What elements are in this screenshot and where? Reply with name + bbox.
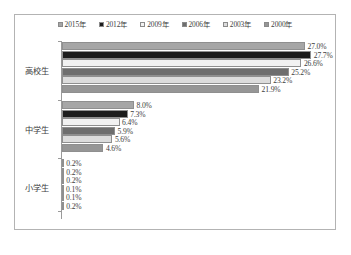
chart-frame: 2015年2012年2009年2006年2003年2000年 高校生27.0%2… bbox=[14, 14, 336, 230]
legend-swatch-icon bbox=[182, 22, 187, 27]
bar-row: 6.4% bbox=[62, 118, 337, 126]
bar-row: 4.6% bbox=[62, 144, 337, 152]
legend-swatch-icon bbox=[264, 22, 269, 27]
bar-row: 5.6% bbox=[62, 135, 337, 143]
bar-row: 7.3% bbox=[62, 110, 337, 118]
legend-entry[interactable]: 2009年 bbox=[140, 21, 168, 28]
legend-label: 2006年 bbox=[189, 21, 210, 28]
bar[interactable] bbox=[62, 85, 259, 93]
bar-row: 23.2% bbox=[62, 76, 337, 84]
bar[interactable] bbox=[62, 144, 103, 152]
axis-tick bbox=[58, 211, 61, 212]
bar[interactable] bbox=[62, 51, 311, 59]
legend-entry[interactable]: 2003年 bbox=[223, 21, 251, 28]
bar[interactable] bbox=[62, 42, 305, 50]
bar-row: 27.7% bbox=[62, 51, 337, 59]
legend-swatch-icon bbox=[99, 22, 104, 27]
bar[interactable] bbox=[62, 159, 64, 167]
bar[interactable] bbox=[62, 59, 301, 67]
legend-swatch-icon bbox=[58, 22, 63, 27]
bar[interactable] bbox=[62, 168, 64, 176]
legend-entry[interactable]: 2015年 bbox=[58, 21, 86, 28]
axis-tick bbox=[58, 158, 61, 159]
category-axis-label: 高校生 bbox=[15, 64, 59, 76]
bar-series-container: 27.0%27.7%26.6%25.2%23.2%21.9% bbox=[62, 42, 337, 94]
bar[interactable] bbox=[62, 185, 64, 193]
bar-row: 0.2% bbox=[62, 159, 337, 167]
bar-row: 26.6% bbox=[62, 59, 337, 67]
legend-label: 2003年 bbox=[230, 21, 251, 28]
legend-entry[interactable]: 2006年 bbox=[182, 21, 210, 28]
legend-label: 2009年 bbox=[147, 21, 168, 28]
bar-value-label: 25.2% bbox=[291, 67, 310, 76]
bar-value-label: 0.2% bbox=[66, 201, 81, 210]
bar-row: 8.0% bbox=[62, 101, 337, 109]
bar-row: 25.2% bbox=[62, 68, 337, 76]
chart-legend: 2015年2012年2009年2006年2003年2000年 bbox=[15, 21, 335, 28]
legend-label: 2015年 bbox=[65, 21, 86, 28]
category-axis-label: 中学生 bbox=[15, 123, 59, 135]
bar[interactable] bbox=[62, 68, 289, 76]
bar-row: 0.2% bbox=[62, 176, 337, 184]
bar[interactable] bbox=[62, 135, 112, 143]
axis-tick bbox=[58, 100, 61, 101]
bar[interactable] bbox=[62, 118, 120, 126]
bar-row: 0.1% bbox=[62, 193, 337, 201]
legend-label: 2000年 bbox=[271, 21, 292, 28]
bar[interactable] bbox=[62, 176, 64, 184]
bar-row: 5.9% bbox=[62, 127, 337, 135]
legend-label: 2012年 bbox=[106, 21, 127, 28]
bar-row: 27.0% bbox=[62, 42, 337, 50]
bar-row: 0.2% bbox=[62, 168, 337, 176]
legend-swatch-icon bbox=[140, 22, 145, 27]
bar-row: 21.9% bbox=[62, 85, 337, 93]
bar[interactable] bbox=[62, 202, 64, 210]
bar-row: 0.2% bbox=[62, 202, 337, 210]
bar[interactable] bbox=[62, 193, 64, 201]
category-axis-label: 小学生 bbox=[15, 181, 59, 193]
legend-entry[interactable]: 2012年 bbox=[99, 21, 127, 28]
bar[interactable] bbox=[62, 127, 115, 135]
bar[interactable] bbox=[62, 110, 128, 118]
bar-value-label: 21.9% bbox=[262, 84, 281, 93]
chart-plot-area: 高校生27.0%27.7%26.6%25.2%23.2%21.9%中学生8.0%… bbox=[15, 39, 337, 225]
legend-entry[interactable]: 2000年 bbox=[264, 21, 292, 28]
bar[interactable] bbox=[62, 76, 271, 84]
axis-tick bbox=[58, 41, 61, 42]
bar-row: 0.1% bbox=[62, 185, 337, 193]
bar[interactable] bbox=[62, 101, 134, 109]
bar-value-label: 4.6% bbox=[106, 143, 121, 152]
bar-series-container: 8.0%7.3%6.4%5.9%5.6%4.6% bbox=[62, 101, 337, 153]
bar-series-container: 0.2%0.2%0.2%0.1%0.1%0.2% bbox=[62, 159, 337, 211]
legend-swatch-icon bbox=[223, 22, 228, 27]
